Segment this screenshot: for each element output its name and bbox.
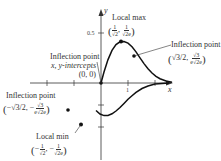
function-curve <box>96 83 169 116</box>
local-max-coords: (1√2, 1√2e) <box>108 24 135 37</box>
y-axis-arrow-icon <box>99 9 104 16</box>
origin-label-line2: x, y-intercepts <box>46 62 96 70</box>
inflection-left-coords: (−√3/2, −√3e√2e) <box>3 102 50 115</box>
leader-inflection-right <box>134 45 171 56</box>
local-max-point <box>119 40 123 44</box>
inflection-left-label: Inflection point <box>6 92 56 100</box>
x-tick-label-1: 1 <box>126 87 129 93</box>
inflection-right-label: Inflection point <box>171 41 221 49</box>
y-axis-label: y <box>104 7 108 15</box>
local-min-label: Local min <box>36 133 69 141</box>
local-min-coords: (−1√2, −1√2e) <box>31 143 67 156</box>
leader-origin <box>97 62 101 83</box>
inflection-right-coords: (√3/2, √3e√2e) <box>168 52 206 65</box>
inflection-left-point <box>66 108 70 112</box>
x-axis-label: x <box>168 86 172 94</box>
y-tick-label-0-5: 0.5 <box>87 30 95 36</box>
origin-label-line1: Inflection point <box>50 53 96 61</box>
local-max-label: Local max <box>112 14 146 22</box>
origin-label-line3: (0, 0) <box>76 71 96 79</box>
leader-local-min <box>75 125 81 134</box>
